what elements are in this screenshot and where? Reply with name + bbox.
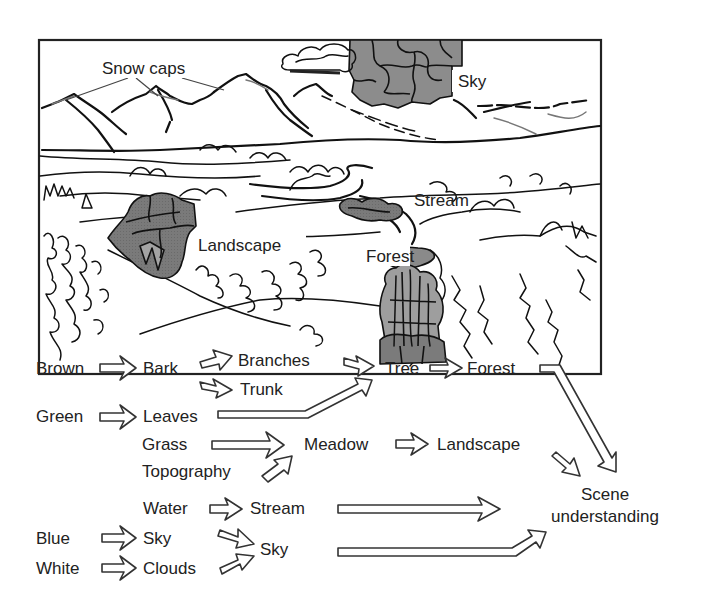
node-branches: Branches — [238, 351, 310, 370]
node-stream: Stream — [250, 499, 305, 518]
arrow-blue-sky — [102, 526, 136, 550]
label-snow-caps: Snow caps — [102, 59, 185, 78]
figure-canvas: Snow caps Sky Stream Landscape Forest Br… — [0, 0, 706, 601]
node-white: White — [36, 559, 79, 578]
figure: Snow caps Sky Stream Landscape Forest Br… — [0, 0, 706, 601]
label-sky: Sky — [458, 72, 487, 91]
sky-segmentation-region — [349, 40, 462, 108]
hierarchy-diagram: Brown Bark Branches Trunk Tree Forest Gr… — [36, 350, 659, 580]
arrow-green-leaves — [100, 405, 136, 429]
node-topography: Topography — [142, 462, 231, 481]
node-green: Green — [36, 407, 83, 426]
label-forest: Forest — [366, 247, 414, 266]
node-grass: Grass — [142, 435, 187, 454]
node-trunk: Trunk — [240, 380, 283, 399]
arrow-stream-scene — [338, 497, 500, 521]
node-water: Water — [143, 499, 188, 518]
node-sky-combined: Sky — [260, 540, 289, 559]
arrow-clouds-skycombined — [220, 554, 254, 574]
label-stream: Stream — [414, 191, 469, 210]
arrow-topography-meadow — [262, 456, 292, 482]
node-landscape: Landscape — [437, 435, 520, 454]
node-tree: Tree — [385, 359, 419, 378]
node-brown: Brown — [36, 359, 84, 378]
node-sky: Sky — [143, 529, 172, 548]
node-meadow: Meadow — [304, 435, 369, 454]
scene-frame — [39, 40, 601, 374]
node-forest: Forest — [467, 359, 515, 378]
arrow-grass-meadow — [212, 432, 284, 458]
node-bark: Bark — [143, 359, 178, 378]
label-landscape: Landscape — [198, 236, 281, 255]
arrow-landscape-scene — [552, 452, 580, 476]
arrow-sky-scene — [338, 530, 546, 556]
node-leaves: Leaves — [143, 407, 198, 426]
arrow-water-stream — [210, 498, 242, 520]
arrow-sky-skycombined — [218, 529, 254, 548]
node-blue: Blue — [36, 529, 70, 548]
node-scene-understanding-line2: understanding — [551, 507, 659, 526]
arrow-meadow-landscape — [396, 433, 428, 455]
arrow-bark-trunk — [200, 379, 232, 398]
arrow-white-clouds — [102, 556, 136, 580]
node-scene-understanding-line1: Scene — [581, 485, 629, 504]
landscape-illustration: Snow caps Sky Stream Landscape Forest — [39, 40, 601, 374]
node-clouds: Clouds — [143, 559, 196, 578]
